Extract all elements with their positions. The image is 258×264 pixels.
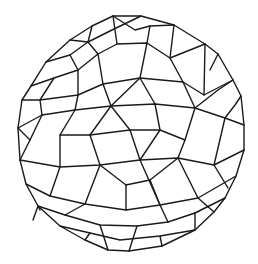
polyhedron-drawing [0, 0, 258, 264]
polyhedron-edges [18, 16, 244, 251]
